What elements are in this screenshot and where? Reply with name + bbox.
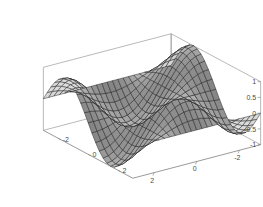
z-tick-label: 1 xyxy=(252,78,256,85)
y-tick-label: -2 xyxy=(63,136,69,143)
surface-plot-figure: -1-0.500.51-20220-2 xyxy=(0,0,263,207)
z-tick-label: 0.5 xyxy=(246,94,256,101)
z-tick-label: -1 xyxy=(250,141,256,148)
y-tick-label: 0 xyxy=(93,151,97,158)
z-tick-label: 0 xyxy=(252,110,256,117)
x-tick-label: 2 xyxy=(150,177,154,184)
x-tick-label: 0 xyxy=(193,165,197,172)
y-tick-label: 2 xyxy=(122,167,126,174)
x-tick-label: -2 xyxy=(234,154,240,161)
plot-canvas: -1-0.500.51-20220-2 xyxy=(0,0,263,207)
z-tick-label: -0.5 xyxy=(244,126,256,133)
